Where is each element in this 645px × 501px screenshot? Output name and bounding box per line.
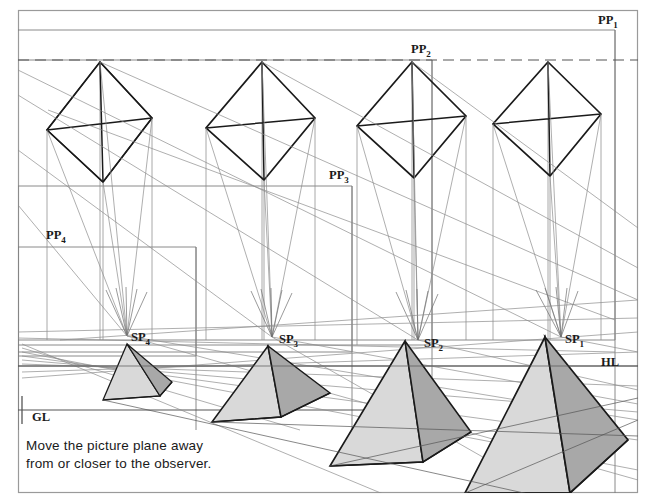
label-gl: GL	[32, 410, 50, 424]
figure-caption: Move the picture plane away from or clos…	[26, 437, 326, 473]
label-hl: HL	[601, 355, 619, 369]
figure-canvas: PP1 PP2 PP3 PP4 SP4 SP3 SP2 SP1 HL GL Mo…	[0, 0, 645, 501]
perspective-diagram: PP1 PP2 PP3 PP4 SP4 SP3 SP2 SP1 HL GL	[0, 0, 645, 501]
caption-line-2: from or closer to the observer.	[26, 455, 326, 473]
caption-line-1: Move the picture plane away	[26, 437, 326, 455]
